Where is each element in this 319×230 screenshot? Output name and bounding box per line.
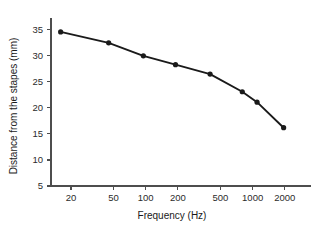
- x-tick-label: 2000: [274, 192, 295, 203]
- y-tick-label: 30: [32, 50, 43, 61]
- x-tick-label: 1000: [242, 192, 263, 203]
- data-point-marker: [281, 125, 286, 130]
- data-point-marker: [254, 100, 259, 105]
- data-point-markers: [58, 29, 286, 130]
- x-tick-label: 100: [138, 192, 154, 203]
- y-tick-label: 20: [32, 102, 43, 113]
- y-tick-label: 25: [32, 76, 43, 87]
- chart-figure: 5101520253035 205010020050010002000 Freq…: [0, 0, 319, 230]
- x-tick-label: 50: [108, 192, 119, 203]
- data-point-marker: [240, 89, 245, 94]
- y-tick-label: 10: [32, 154, 43, 165]
- x-tick-label: 20: [66, 192, 77, 203]
- data-point-marker: [207, 71, 212, 76]
- x-axis-title: Frequency (Hz): [138, 210, 207, 221]
- y-tick-label: 15: [32, 128, 43, 139]
- line-chart-canvas: 5101520253035 205010020050010002000 Freq…: [0, 0, 319, 230]
- x-tick-label: 500: [213, 192, 229, 203]
- data-series-group: [58, 29, 286, 130]
- y-tick-label: 35: [32, 24, 43, 35]
- y-tick-label: 5: [38, 180, 43, 191]
- x-tick-label: 200: [170, 192, 186, 203]
- data-point-marker: [141, 53, 146, 58]
- axes-group: [51, 18, 311, 186]
- data-point-marker: [106, 40, 111, 45]
- data-point-marker: [58, 29, 63, 34]
- x-axis-ticks: 205010020050010002000: [66, 186, 296, 203]
- data-point-marker: [173, 62, 178, 67]
- y-axis-title: Distance from the stapes (mm): [8, 38, 19, 175]
- y-axis-ticks: 5101520253035: [32, 24, 51, 191]
- data-line-path: [61, 32, 284, 128]
